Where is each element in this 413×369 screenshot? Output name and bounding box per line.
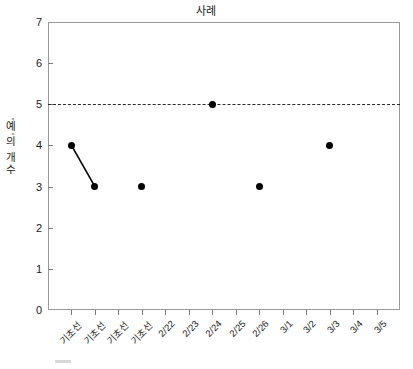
x-tick-label: 3/2 (310, 309, 327, 326)
x-tick-label: 3/3 (334, 309, 351, 326)
x-tick-mark (283, 310, 284, 315)
data-point (68, 142, 75, 149)
data-point (256, 183, 263, 190)
x-tick-label: 3/1 (287, 309, 304, 326)
y-tick-mark (48, 187, 53, 188)
y-tick-label: 3 (26, 181, 42, 193)
chart-container: 사례 '예'의 개수 01234567 기초선기초선기초선기초선2/222/23… (0, 0, 413, 369)
x-tick-mark (377, 310, 378, 315)
y-axis-label: '예'의 개수 (2, 118, 16, 176)
x-tick-mark (95, 310, 96, 315)
y-tick-label: 5 (26, 98, 42, 110)
y-tick-mark (48, 63, 53, 64)
reference-line-dashed (48, 104, 400, 105)
x-tick-mark (165, 310, 166, 315)
y-tick-label: 6 (26, 57, 42, 69)
y-tick-label: 0 (26, 304, 42, 316)
x-tick-mark (142, 310, 143, 315)
x-tick-label: 3/5 (381, 309, 398, 326)
x-tick-mark (306, 310, 307, 315)
x-tick-mark (236, 310, 237, 315)
y-tick-mark (48, 228, 53, 229)
x-tick-mark (189, 310, 190, 315)
y-tick-label: 4 (26, 139, 42, 151)
x-tick-mark (330, 310, 331, 315)
y-tick-label: 7 (26, 16, 42, 28)
data-point (326, 142, 333, 149)
chart-title: 사례 (0, 2, 413, 18)
y-tick-label: 2 (26, 222, 42, 234)
footer-mark (55, 360, 71, 363)
y-tick-mark (48, 269, 53, 270)
x-tick-mark (118, 310, 119, 315)
x-tick-label: 3/4 (357, 309, 374, 326)
x-tick-mark (353, 310, 354, 315)
x-tick-mark (212, 310, 213, 315)
plot-area (48, 22, 400, 310)
x-tick-mark (259, 310, 260, 315)
y-tick-mark (48, 145, 53, 146)
x-tick-mark (71, 310, 72, 315)
data-point (209, 101, 216, 108)
y-tick-label: 1 (26, 263, 42, 275)
